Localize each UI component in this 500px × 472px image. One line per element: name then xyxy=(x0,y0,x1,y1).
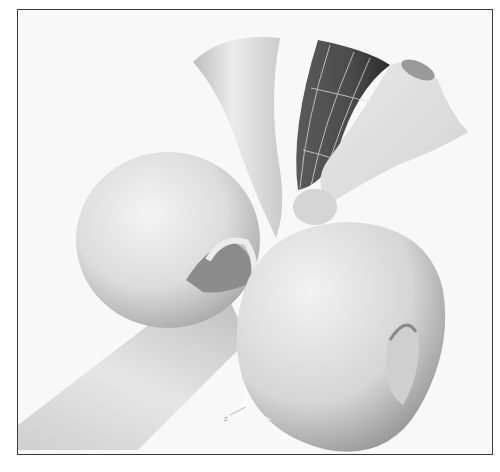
svg-text:z: z xyxy=(224,415,228,423)
knob-surface xyxy=(293,189,337,225)
3d-viewport[interactable]: z xyxy=(17,9,493,455)
scene-render: z xyxy=(18,10,493,455)
